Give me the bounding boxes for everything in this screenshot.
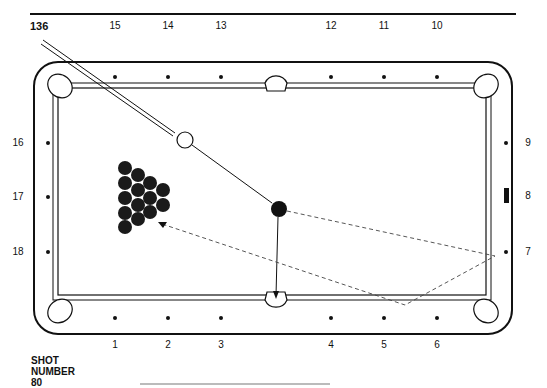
pocket-bottom-right xyxy=(469,294,503,328)
object-ball-path xyxy=(276,217,278,296)
cut-off-text-line xyxy=(140,383,330,385)
cue-ball xyxy=(177,132,193,148)
shot-caption-number: 80 xyxy=(31,377,75,388)
cushion-edge xyxy=(53,83,491,300)
shot-caption-line1: SHOT xyxy=(31,355,75,366)
object-ball xyxy=(271,201,287,217)
diamond-8-marker xyxy=(504,188,509,203)
pocket-top-right xyxy=(469,69,503,103)
pocket-bottom-left xyxy=(43,294,77,328)
diamond-label-7: 7 xyxy=(518,246,538,257)
cue-ball-path xyxy=(192,145,272,203)
diamond-label-18: 18 xyxy=(8,246,28,257)
diamond-markers xyxy=(46,75,509,320)
diamond-label-3: 3 xyxy=(211,339,231,350)
diamond-label-13: 13 xyxy=(211,20,231,31)
diamond-label-17: 17 xyxy=(8,191,28,202)
shot-caption-line2: NUMBER xyxy=(31,366,75,377)
diamond-label-12: 12 xyxy=(321,20,341,31)
shot-caption: SHOT NUMBER 80 xyxy=(31,355,75,388)
diamond-label-5: 5 xyxy=(374,339,394,350)
diamond-label-4: 4 xyxy=(321,339,341,350)
diamond-label-11: 11 xyxy=(374,20,394,31)
diamond-label-10: 10 xyxy=(427,20,447,31)
diamond-label-9: 9 xyxy=(518,137,538,148)
diamond-label-8: 8 xyxy=(518,190,538,201)
diamond-label-14: 14 xyxy=(158,20,178,31)
diamond-label-15: 15 xyxy=(105,20,125,31)
pocket-top-side xyxy=(265,76,287,91)
diamond-label-16: 16 xyxy=(8,137,28,148)
diamond-label-2: 2 xyxy=(158,339,178,350)
pocket-top-left xyxy=(43,69,77,103)
diamond-label-1: 1 xyxy=(105,339,125,350)
diamond-label-6: 6 xyxy=(427,339,447,350)
playing-surface xyxy=(58,88,486,295)
bank-shot-path xyxy=(162,211,495,305)
